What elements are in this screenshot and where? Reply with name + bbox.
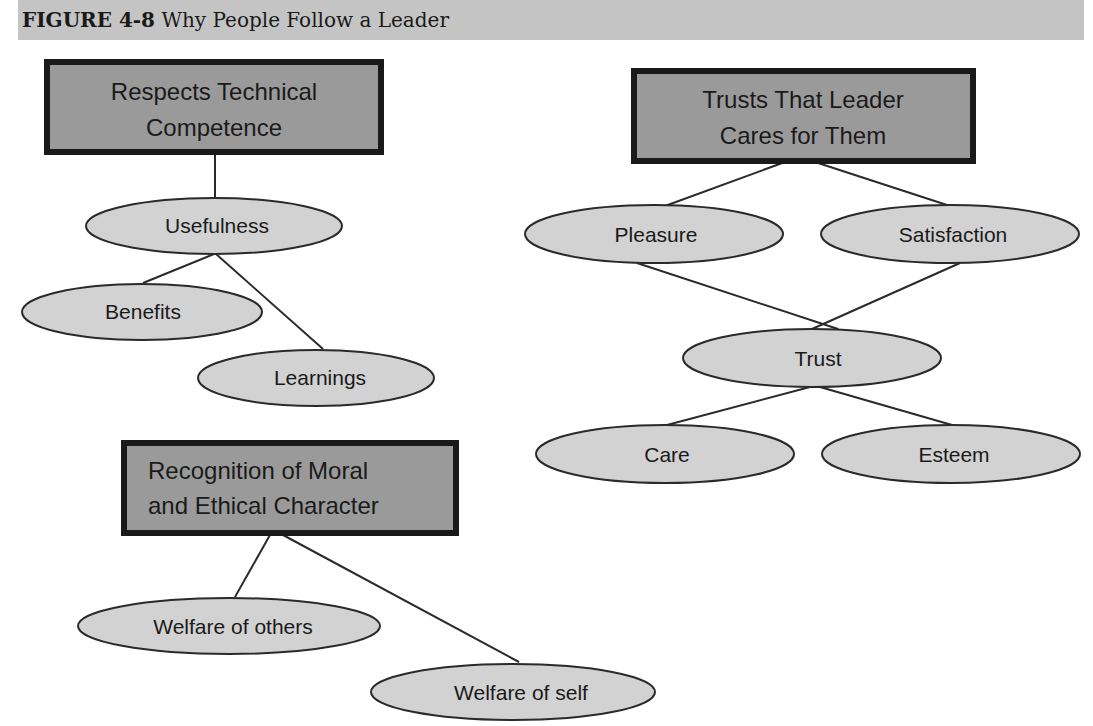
box-trusts-that-leader-cares: Trusts That Leader Cares for Them: [634, 71, 973, 161]
svg-text:Usefulness: Usefulness: [165, 214, 269, 237]
box-recognition-of-moral-ethical-character: Recognition of Moral and Ethical Charact…: [124, 443, 456, 533]
svg-text:Pleasure: Pleasure: [615, 223, 698, 246]
node-pleasure: Pleasure: [525, 205, 783, 263]
node-learnings: Learnings: [198, 350, 434, 406]
svg-text:Welfare of others: Welfare of others: [153, 615, 313, 638]
node-care: Care: [536, 425, 794, 483]
svg-text:Recognition of Moral: Recognition of Moral: [148, 457, 368, 484]
node-esteem: Esteem: [822, 425, 1080, 483]
group-moral-ethical-character: Recognition of Moral and Ethical Charact…: [78, 443, 655, 720]
node-satisfaction: Satisfaction: [821, 205, 1079, 263]
node-benefits: Benefits: [22, 284, 262, 340]
svg-text:Respects Technical: Respects Technical: [111, 78, 317, 105]
node-usefulness: Usefulness: [86, 198, 342, 254]
svg-text:Trusts That Leader: Trusts That Leader: [702, 86, 903, 113]
svg-text:Cares for Them: Cares for Them: [720, 122, 886, 149]
svg-text:Trust: Trust: [794, 347, 841, 370]
node-trust: Trust: [683, 329, 941, 387]
group-technical-competence: Respects Technical Competence Usefulness…: [22, 62, 434, 406]
svg-text:Satisfaction: Satisfaction: [899, 223, 1008, 246]
group-trusts-leader-cares: Trusts That Leader Cares for Them Pleasu…: [525, 71, 1080, 483]
svg-text:Welfare of self: Welfare of self: [454, 681, 588, 704]
box-respects-technical-competence: Respects Technical Competence: [47, 62, 381, 152]
node-welfare-of-others: Welfare of others: [78, 598, 380, 654]
svg-text:Learnings: Learnings: [274, 366, 366, 389]
svg-text:and Ethical Character: and Ethical Character: [148, 492, 379, 519]
diagram-canvas: Respects Technical Competence Usefulness…: [0, 0, 1093, 726]
svg-text:Esteem: Esteem: [918, 443, 989, 466]
svg-text:Competence: Competence: [146, 114, 282, 141]
node-welfare-of-self: Welfare of self: [371, 664, 655, 720]
svg-text:Benefits: Benefits: [105, 300, 181, 323]
svg-text:Care: Care: [644, 443, 690, 466]
